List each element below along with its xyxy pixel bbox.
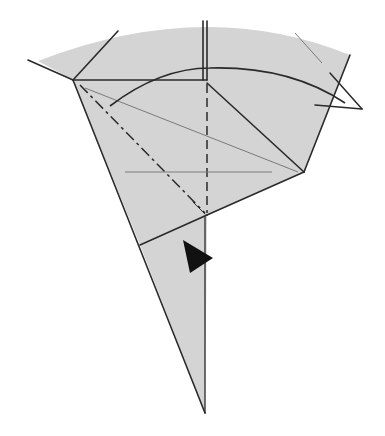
paper-lower-point bbox=[140, 215, 207, 413]
origami-diagram bbox=[0, 0, 385, 436]
paper-upper-region bbox=[38, 27, 350, 245]
